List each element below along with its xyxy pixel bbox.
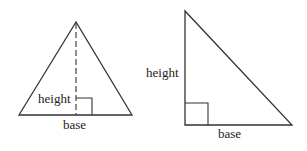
triangle-outline bbox=[185, 11, 292, 125]
height-label: height bbox=[146, 65, 179, 80]
isosceles-triangle: height base bbox=[19, 22, 132, 132]
right-angle-marker bbox=[185, 103, 208, 125]
height-label: height bbox=[38, 91, 71, 106]
base-label: base bbox=[63, 117, 86, 132]
right-triangle: height base bbox=[146, 11, 292, 141]
right-angle-marker bbox=[76, 98, 92, 115]
triangle-diagrams: height base height base bbox=[0, 0, 307, 151]
base-label: base bbox=[218, 126, 241, 141]
diagram-canvas: height base height base bbox=[0, 0, 307, 151]
